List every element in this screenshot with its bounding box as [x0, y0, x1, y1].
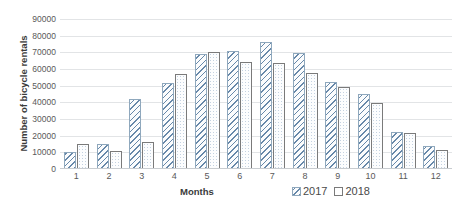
bar-group-month-1: [60, 19, 93, 169]
x-tick-4: 4: [158, 171, 191, 185]
x-axis-title: Months: [180, 186, 214, 197]
y-tick-70000: 70000: [32, 47, 56, 57]
y-tick-50000: 50000: [32, 81, 56, 91]
bar-2017-month-4: [162, 83, 174, 169]
bar-2018-month-8: [306, 73, 318, 169]
x-tick-8: 8: [289, 171, 322, 185]
x-tick-6: 6: [223, 171, 256, 185]
y-tick-10000: 10000: [32, 147, 56, 157]
bar-group-month-8: [289, 19, 322, 169]
bar-2018-month-9: [338, 87, 350, 170]
legend-label-2017: 2017: [303, 185, 327, 197]
bar-group-month-5: [191, 19, 224, 169]
bar-2018-month-11: [404, 133, 416, 169]
bicycle-rentals-bar-chart: Number of bicycle rentals 01000020000300…: [0, 0, 460, 209]
bar-group-month-10: [354, 19, 387, 169]
bar-2018-month-7: [273, 63, 285, 169]
bar-2017-month-3: [129, 99, 141, 170]
bar-2018-month-10: [371, 103, 383, 169]
bar-group-month-6: [223, 19, 256, 169]
bar-2018-month-5: [208, 52, 220, 169]
x-tick-1: 1: [60, 171, 93, 185]
legend-swatch-2017-icon: [292, 187, 301, 196]
x-tick-11: 11: [387, 171, 420, 185]
legend-label-2018: 2018: [345, 185, 369, 197]
x-tick-3: 3: [125, 171, 158, 185]
y-tick-20000: 20000: [32, 131, 56, 141]
plot-area: [60, 19, 452, 169]
legend-swatch-2018-icon: [334, 187, 343, 196]
bar-2018-month-1: [77, 144, 89, 169]
bar-group-month-11: [387, 19, 420, 169]
bar-2017-month-2: [97, 144, 109, 169]
x-tick-10: 10: [354, 171, 387, 185]
x-axis-line: [60, 168, 452, 169]
bar-2017-month-6: [227, 51, 239, 169]
bar-2017-month-12: [423, 146, 435, 169]
bar-group-month-9: [321, 19, 354, 169]
bar-2017-month-11: [391, 132, 403, 170]
bar-2017-month-9: [325, 82, 337, 169]
bar-group-month-12: [419, 19, 452, 169]
bar-2018-month-6: [240, 62, 252, 170]
bar-groups: [60, 19, 452, 169]
x-axis-tick-labels: 123456789101112: [60, 171, 452, 185]
x-tick-12: 12: [419, 171, 452, 185]
y-tick-30000: 30000: [32, 114, 56, 124]
bar-2017-month-8: [293, 53, 305, 169]
bar-2017-month-1: [64, 152, 76, 169]
y-tick-60000: 60000: [32, 64, 56, 74]
bar-group-month-7: [256, 19, 289, 169]
bar-2018-month-4: [175, 74, 187, 169]
x-tick-9: 9: [321, 171, 354, 185]
bar-2018-month-12: [436, 150, 448, 169]
y-tick-80000: 80000: [32, 31, 56, 41]
legend-item-2018: 2018: [334, 185, 369, 197]
y-tick-90000: 90000: [32, 14, 56, 24]
x-tick-7: 7: [256, 171, 289, 185]
bar-2018-month-3: [142, 142, 154, 170]
bar-2018-month-2: [110, 151, 122, 169]
bar-group-month-3: [125, 19, 158, 169]
chart-legend: 2017 2018: [292, 185, 370, 197]
bar-2017-month-10: [358, 94, 370, 169]
y-tick-40000: 40000: [32, 97, 56, 107]
x-tick-2: 2: [93, 171, 126, 185]
bar-2017-month-5: [195, 54, 207, 169]
y-tick-0: 0: [51, 164, 56, 174]
x-tick-5: 5: [191, 171, 224, 185]
legend-item-2017: 2017: [292, 185, 327, 197]
y-axis-tick-labels: 0100002000030000400005000060000700008000…: [20, 14, 56, 170]
bar-group-month-2: [93, 19, 126, 169]
bar-group-month-4: [158, 19, 191, 169]
bar-2017-month-7: [260, 42, 272, 169]
